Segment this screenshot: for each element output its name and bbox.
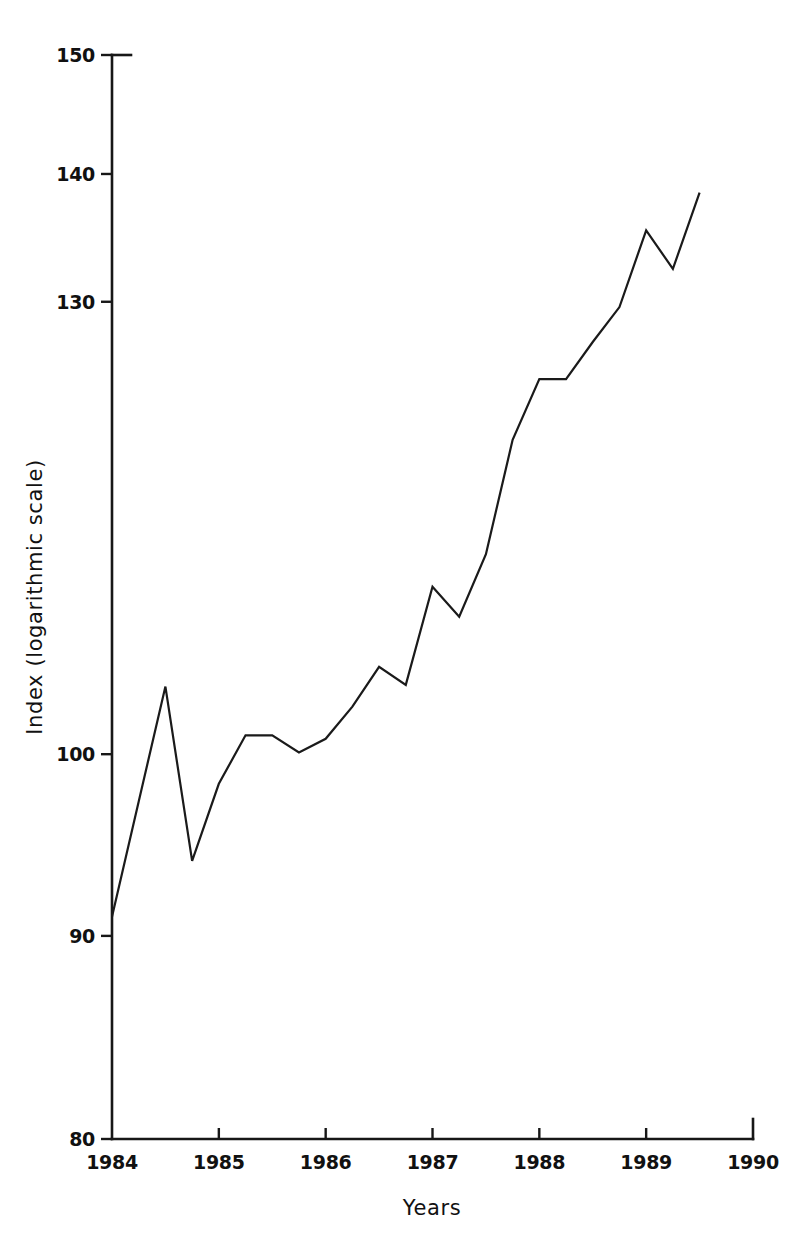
chart-figure: 8090100130140150 19841985198619871988198… — [0, 0, 812, 1239]
y-tick-label: 150 — [56, 44, 95, 66]
x-axis-ticks: 1984198519861987198819891990 — [86, 1128, 779, 1173]
x-tick-label: 1988 — [513, 1151, 565, 1173]
x-tick-label: 1990 — [727, 1151, 779, 1173]
y-tick-label: 100 — [56, 743, 95, 765]
x-axis-title: Years — [402, 1196, 461, 1220]
data-line-index — [112, 193, 700, 917]
x-tick-label: 1984 — [86, 1151, 138, 1173]
x-tick-label: 1985 — [193, 1151, 245, 1173]
y-tick-label: 130 — [56, 291, 95, 313]
y-tick-label: 80 — [69, 1128, 95, 1150]
y-axis-ticks: 8090100130140150 — [56, 44, 112, 1150]
x-tick-label: 1989 — [620, 1151, 672, 1173]
x-tick-label: 1986 — [300, 1151, 352, 1173]
y-tick-label: 90 — [69, 925, 95, 947]
axes-group — [112, 55, 753, 1139]
y-axis-title: Index (logarithmic scale) — [23, 459, 47, 734]
line-chart-canvas: 8090100130140150 19841985198619871988198… — [0, 0, 812, 1239]
x-tick-label: 1987 — [407, 1151, 459, 1173]
y-tick-label: 140 — [56, 163, 95, 185]
data-series-group — [112, 193, 700, 917]
